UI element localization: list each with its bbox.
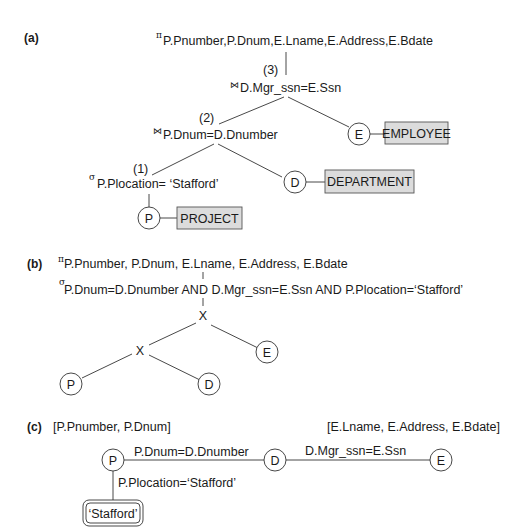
select1-condition: P.Plocation= ‘Stafford’ xyxy=(97,177,219,191)
node-p-label: P xyxy=(67,378,75,392)
node-p-label: P xyxy=(109,454,117,468)
left-attributes: [P.Pnumber, P.Dnum] xyxy=(53,420,171,434)
node-d-label: D xyxy=(270,454,279,468)
projection-attributes: P.Pnumber, P.Dnum, E.Lname, E.Address, E… xyxy=(64,257,348,271)
join-symbol: ⋈ xyxy=(153,126,162,136)
edge-join3-e xyxy=(288,97,349,127)
node-d-label: D xyxy=(204,378,213,392)
relation-department-label: DEPARTMENT xyxy=(327,175,412,189)
relation-employee-label: EMPLOYEE xyxy=(382,127,451,141)
projection-attributes: P.Pnumber,P.Dnum,E.Lname,E.Address,E.Bda… xyxy=(163,34,433,48)
cross-product-inner: X xyxy=(136,344,145,358)
node-e-label: E xyxy=(355,128,363,142)
edge-p-d-label: P.Dnum=D.Dnumber xyxy=(134,445,249,459)
edge-join3-join2 xyxy=(219,97,284,124)
part-c-label: (c) xyxy=(27,420,42,434)
edge-cross-e xyxy=(211,325,258,348)
part-a-query-tree: (a) π P.Pnumber,P.Dnum,E.Lname,E.Address… xyxy=(24,30,451,229)
edge-join2-select xyxy=(152,144,214,175)
join-symbol: ⋈ xyxy=(230,80,239,90)
edge-cross-p xyxy=(82,354,132,378)
edge-join2-d xyxy=(218,144,282,177)
step-1-label: (1) xyxy=(133,162,148,176)
node-p-label: P xyxy=(145,212,153,226)
part-a-label: (a) xyxy=(24,31,39,45)
edge-d-e-label: D.Mgr_ssn=E.Ssn xyxy=(305,444,406,458)
right-attributes: [E.Lname, E.Address, E.Bdate] xyxy=(327,420,500,434)
step-3-label: (3) xyxy=(263,63,278,77)
projection-symbol: π xyxy=(156,30,162,40)
node-e-label: E xyxy=(263,346,271,360)
constant-node-label: ‘Stafford’ xyxy=(88,507,137,521)
part-b-canonical-tree: (b) π P.Pnumber, P.Dnum, E.Lname, E.Addr… xyxy=(27,254,463,395)
part-c-query-graph: (c) [P.Pnumber, P.Dnum] [E.Lname, E.Addr… xyxy=(27,420,500,526)
step-2-label: (2) xyxy=(199,111,214,125)
cross-product-top: X xyxy=(199,309,208,323)
part-b-label: (b) xyxy=(27,257,42,271)
relation-project-label: PROJECT xyxy=(180,212,239,226)
edge-p-constant-label: P.Plocation=‘Stafford’ xyxy=(118,476,236,490)
edge-cross-d xyxy=(149,355,200,380)
node-d-label: D xyxy=(290,176,299,190)
select-symbol: σ xyxy=(89,172,95,182)
join3-condition: D.Mgr_ssn=E.Ssn xyxy=(240,81,341,95)
select-conditions: P.Dnum=D.Dnumber AND D.Mgr_ssn=E.Ssn AND… xyxy=(64,283,463,297)
edge-cross-cross xyxy=(149,323,196,345)
node-e-label: E xyxy=(437,454,445,468)
join2-condition: P.Dnum=D.Dnumber xyxy=(163,128,278,142)
query-tree-figure: (a) π P.Pnumber,P.Dnum,E.Lname,E.Address… xyxy=(0,0,531,527)
